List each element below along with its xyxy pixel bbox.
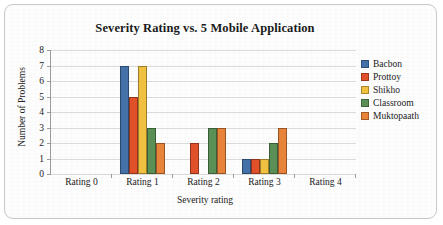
y-axis-tick	[47, 174, 51, 175]
bar	[269, 143, 278, 174]
legend-swatch-icon	[361, 60, 369, 68]
legend-label: Prottoy	[373, 72, 401, 82]
bar	[242, 159, 251, 175]
y-axis-tick-label: 4	[39, 107, 44, 117]
y-axis-tick-label: 7	[39, 61, 44, 71]
x-axis-tick-label: Rating 3	[234, 177, 295, 187]
legend-item[interactable]: Muktopaath	[361, 111, 419, 121]
y-axis-tick-label: 1	[39, 154, 44, 164]
x-axis-tick-label: Rating 2	[173, 177, 234, 187]
x-axis-tick-label: Rating 4	[295, 177, 356, 187]
bar	[217, 128, 226, 175]
y-axis-tick-label: 0	[39, 169, 44, 179]
bar	[208, 128, 217, 175]
x-axis-title: Severity rating	[50, 195, 360, 205]
bar-group: Rating 3	[234, 50, 295, 174]
legend-swatch-icon	[361, 99, 369, 107]
bar	[260, 159, 269, 175]
y-axis-tick-label: 8	[39, 45, 44, 55]
y-axis-tick-label: 6	[39, 76, 44, 86]
y-axis-tick-label: 3	[39, 123, 44, 133]
legend-swatch-icon	[361, 73, 369, 81]
legend-label: Bacbon	[373, 59, 402, 69]
bar	[147, 128, 156, 175]
bar	[156, 143, 165, 174]
legend-label: Shikho	[373, 85, 400, 95]
bar	[190, 143, 199, 174]
legend-item[interactable]: Shikho	[361, 85, 419, 95]
y-axis-tick-label: 5	[39, 92, 44, 102]
y-axis-title: Number of Problems	[17, 57, 27, 157]
bar-group: Rating 0	[51, 50, 112, 174]
plot-area: 012345678 Rating 0Rating 1Rating 2Rating…	[51, 50, 356, 174]
bar-group: Rating 2	[173, 50, 234, 174]
y-axis-tick-label: 2	[39, 138, 44, 148]
legend-swatch-icon	[361, 112, 369, 120]
chart-frame: Severity Rating vs. 5 Mobile Application…	[4, 4, 437, 219]
legend-label: Muktopaath	[373, 111, 419, 121]
chart-title: Severity Rating vs. 5 Mobile Application	[45, 21, 365, 36]
bar	[278, 128, 287, 175]
gridline	[51, 174, 356, 175]
legend-label: Classroom	[373, 98, 414, 108]
bar-groups: Rating 0Rating 1Rating 2Rating 3Rating 4	[51, 50, 356, 174]
bar	[138, 66, 147, 175]
bar	[129, 97, 138, 175]
legend-item[interactable]: Bacbon	[361, 59, 419, 69]
bar-group: Rating 4	[295, 50, 356, 174]
bar	[120, 66, 129, 175]
legend-swatch-icon	[361, 86, 369, 94]
bar-group: Rating 1	[112, 50, 173, 174]
x-axis-tick-label: Rating 0	[51, 177, 112, 187]
bar	[251, 159, 260, 175]
legend-item[interactable]: Prottoy	[361, 72, 419, 82]
x-axis-tick-label: Rating 1	[112, 177, 173, 187]
chart-legend: BacbonProttoyShikhoClassroomMuktopaath	[361, 59, 419, 121]
x-axis-tick	[355, 174, 356, 178]
legend-item[interactable]: Classroom	[361, 98, 419, 108]
